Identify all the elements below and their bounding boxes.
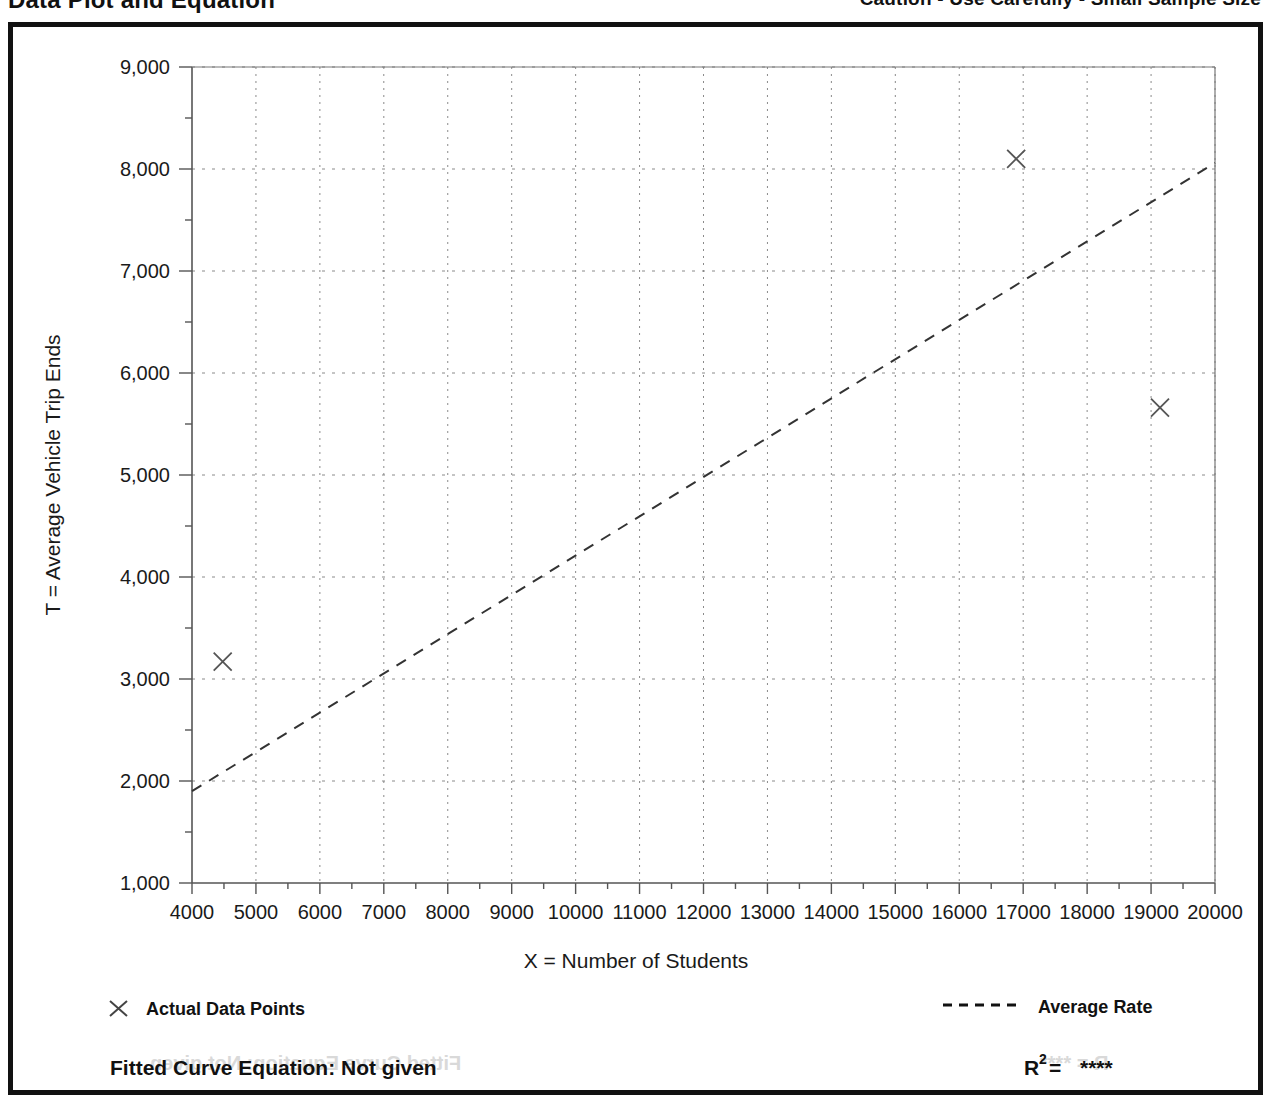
x-tick-label: 10000 [548,901,604,923]
x-tick-label: 12000 [676,901,732,923]
x-axis-title: X = Number of Students [524,949,749,972]
x-tick-label: 11000 [612,901,666,923]
x-marker-icon [110,1001,127,1016]
x-tick-label: 15000 [868,901,924,923]
y-axis-title: T = Average Vehicle Trip Ends [41,334,64,615]
y-tick-label: 8,000 [120,158,170,180]
x-tick-label: 9000 [489,901,534,923]
r-label: R [1024,1056,1039,1079]
x-tick-label: 19000 [1123,901,1179,923]
legend-actual-data-points: Actual Data Points [110,999,305,1019]
grid-major-lines [192,67,1215,883]
y-tick-label: 2,000 [120,770,170,792]
y-tick-label: 6,000 [120,362,170,384]
r-exponent: 2 [1039,1051,1047,1067]
x-tick-label: 6000 [298,901,343,923]
y-tick-label: 3,000 [120,668,170,690]
y-tick-label: 5,000 [120,464,170,486]
r-equals: = [1049,1056,1061,1079]
x-tick-label: 5000 [234,901,279,923]
data-point-markers [214,150,1169,671]
x-tick-label: 13000 [740,901,796,923]
data-plot-svg: 4000500060007000800090001000011000120001… [0,0,1275,1100]
axis-ticks [179,67,1215,894]
fitted-curve-equation: Fitted Curve Equation: Not given [110,1056,437,1079]
x-tick-label: 16000 [931,901,987,923]
legend-line-label: Average Rate [1038,997,1152,1017]
x-tick-label: 14000 [804,901,860,923]
y-tick-label: 9,000 [120,56,170,78]
x-tick-label: 4000 [170,901,215,923]
legend-points-label: Actual Data Points [146,999,305,1019]
data-point-marker [214,653,232,671]
chart-container: 4000500060007000800090001000011000120001… [0,0,1275,1100]
x-tick-label: 20000 [1187,901,1243,923]
y-tick-label: 1,000 [120,872,170,894]
y-tick-label: 7,000 [120,260,170,282]
data-point-marker [1151,399,1169,417]
x-tick-label: 8000 [426,901,471,923]
y-tick-label: 4,000 [120,566,170,588]
axis-tick-labels: 4000500060007000800090001000011000120001… [120,56,1243,923]
r-value: **** [1080,1056,1114,1079]
data-point-marker [1007,150,1025,168]
x-tick-label: 7000 [362,901,407,923]
x-tick-label: 17000 [995,901,1051,923]
legend-average-rate: Average Rate [943,997,1152,1017]
r-squared-value: R 2 = **** [1024,1051,1114,1079]
x-tick-label: 18000 [1059,901,1115,923]
